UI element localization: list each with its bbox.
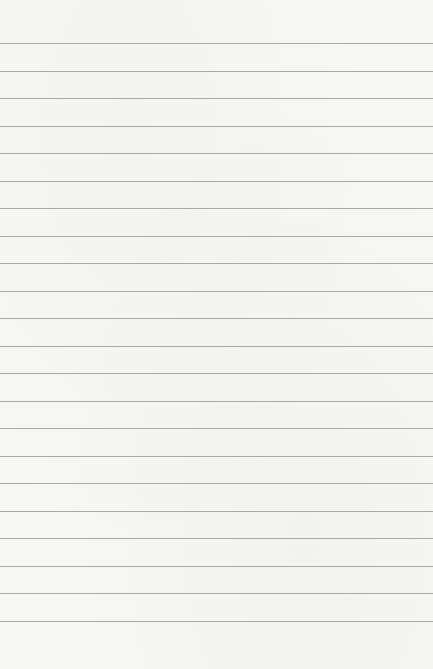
- ruled-line: [0, 428, 433, 429]
- ruled-line: [0, 566, 433, 567]
- ruled-line: [0, 621, 433, 622]
- ruled-line: [0, 291, 433, 292]
- ruled-line: [0, 346, 433, 347]
- ruled-line: [0, 511, 433, 512]
- ruled-line: [0, 263, 433, 264]
- ruled-line: [0, 181, 433, 182]
- ruled-line: [0, 401, 433, 402]
- ruled-line: [0, 456, 433, 457]
- ruled-line: [0, 236, 433, 237]
- ruled-line: [0, 593, 433, 594]
- ruled-line: [0, 538, 433, 539]
- ruled-line: [0, 373, 433, 374]
- ruled-line: [0, 71, 433, 72]
- ruled-line: [0, 208, 433, 209]
- ruled-line: [0, 43, 433, 44]
- ruled-line: [0, 98, 433, 99]
- ruled-line: [0, 153, 433, 154]
- lined-paper: [0, 0, 433, 669]
- ruled-line: [0, 483, 433, 484]
- ruled-line: [0, 318, 433, 319]
- ruled-line: [0, 126, 433, 127]
